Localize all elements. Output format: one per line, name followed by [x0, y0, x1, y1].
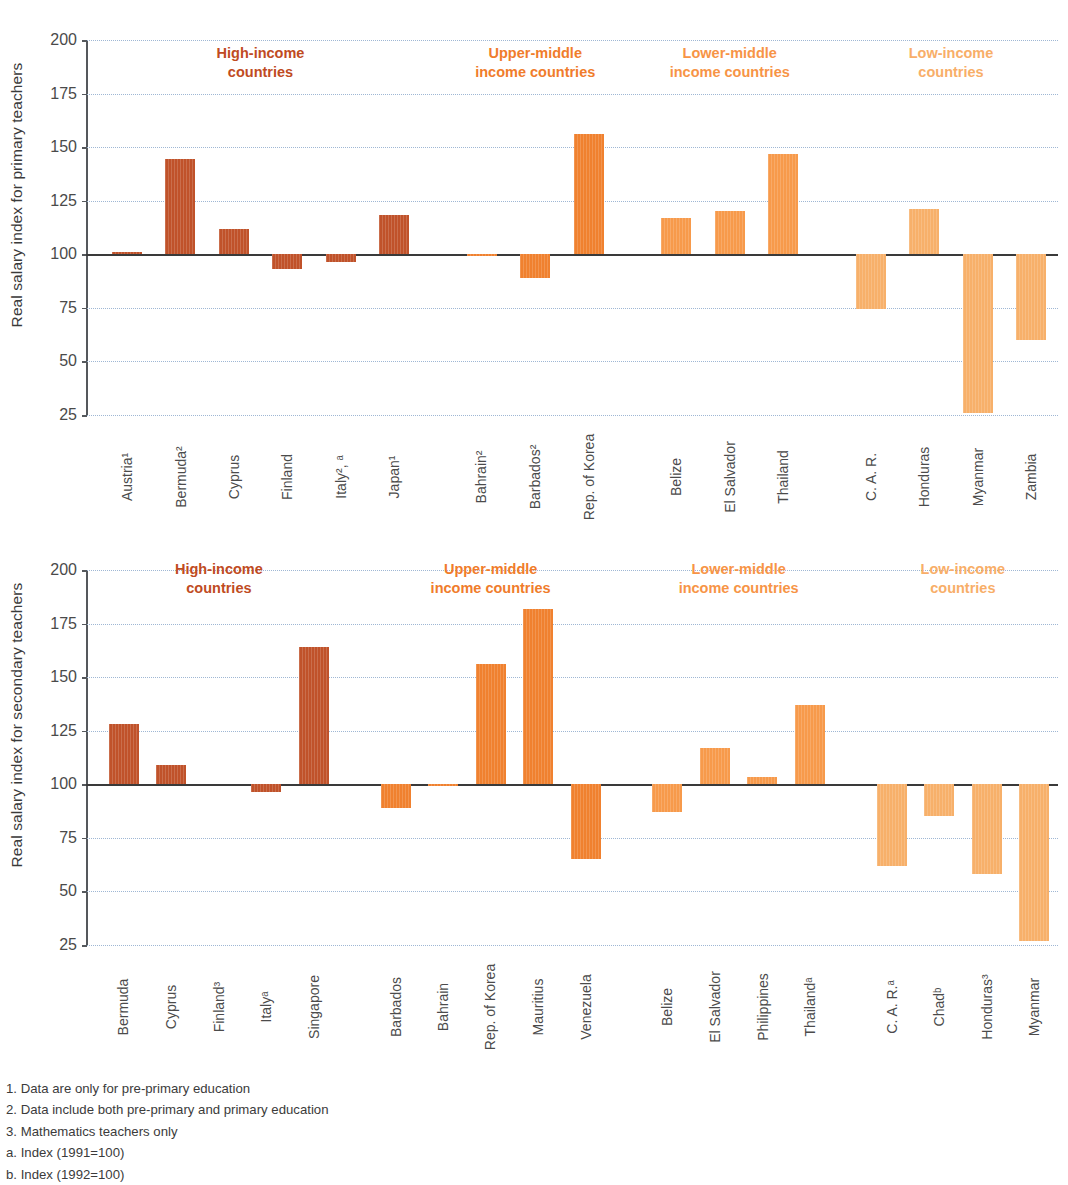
- group-header: Upper-middle income countries: [372, 560, 610, 598]
- y-axis-tick: [82, 838, 87, 840]
- gridline: [86, 945, 1058, 946]
- gridline: [86, 308, 1058, 309]
- bar: [272, 254, 302, 269]
- baseline-100: [86, 254, 1058, 256]
- footnote: 1. Data are only for pre-primary educati…: [6, 1078, 706, 1099]
- group-header: Upper-middle income countries: [455, 44, 616, 82]
- y-axis-tick: [82, 40, 87, 42]
- y-axis-tick-label: 175: [50, 615, 77, 633]
- group-header: Lower-middle income countries: [644, 560, 834, 598]
- chart-primary-teachers: Real salary index for primary teachers 2…: [0, 0, 1068, 530]
- x-axis-label-text: Rep. of Korea: [581, 434, 597, 520]
- bar: [715, 211, 745, 254]
- bar: [747, 777, 777, 785]
- bar: [428, 784, 458, 786]
- bar: [467, 254, 497, 256]
- y-axis-tick: [82, 94, 87, 96]
- y-axis-tick-label: 125: [50, 722, 77, 740]
- gridline: [86, 731, 1058, 732]
- gridline: [86, 201, 1058, 202]
- x-axis-label-text: Thailandᵃ: [802, 978, 818, 1037]
- bar: [379, 215, 409, 255]
- y-axis-tick-label: 100: [50, 245, 77, 263]
- bar: [700, 748, 730, 784]
- gridline: [86, 891, 1058, 892]
- bar: [661, 218, 691, 254]
- y-axis-tick-label: 150: [50, 668, 77, 686]
- y-axis-tick-label: 50: [59, 882, 77, 900]
- gridline: [86, 94, 1058, 95]
- group-header: Low-income countries: [868, 560, 1058, 598]
- bar: [877, 784, 907, 865]
- group-header: Low-income countries: [844, 44, 1058, 82]
- y-axis-line: [86, 40, 88, 415]
- y-axis-tick: [82, 945, 87, 947]
- bar: [574, 134, 604, 254]
- group-header: Lower-middle income countries: [650, 44, 811, 82]
- y-axis-tick-label: 50: [59, 352, 77, 370]
- y-axis-tick-label: 150: [50, 138, 77, 156]
- y-axis-tick: [82, 570, 87, 572]
- bar: [652, 784, 682, 812]
- bar: [156, 765, 186, 784]
- y-axis-tick-label: 75: [59, 299, 77, 317]
- y-axis-tick: [82, 147, 87, 149]
- y-axis-line: [86, 570, 88, 945]
- y-axis-tick: [82, 677, 87, 679]
- plot-area-secondary: 200175150125100755025: [86, 570, 1058, 945]
- x-axis-label: Myanmar: [982, 951, 1068, 1056]
- group-header: High-income countries: [100, 44, 421, 82]
- bar: [520, 254, 550, 278]
- chart-secondary-teachers: Real salary index for secondary teachers…: [0, 530, 1068, 1060]
- bar: [909, 209, 939, 254]
- gridline: [86, 361, 1058, 362]
- bar: [165, 159, 195, 254]
- gridline: [86, 40, 1058, 41]
- bar: [476, 664, 506, 784]
- y-axis-tick-label: 125: [50, 192, 77, 210]
- x-axis-label-text: Thailand: [775, 450, 791, 504]
- bar: [795, 705, 825, 784]
- y-axis-tick-label: 200: [50, 31, 77, 49]
- footnote: b. Index (1992=100): [6, 1164, 706, 1185]
- bar: [768, 154, 798, 255]
- gridline: [86, 415, 1058, 416]
- y-axis-tick-label: 175: [50, 85, 77, 103]
- gridline: [86, 677, 1058, 678]
- y-axis-tick-label: 200: [50, 561, 77, 579]
- y-axis-tick: [82, 891, 87, 893]
- x-axis-labels-primary: Austria¹Bermuda²CyprusFinlandItaly², ᵃJa…: [86, 421, 1058, 526]
- bar: [523, 609, 553, 785]
- gridline: [86, 624, 1058, 625]
- x-axis-labels-secondary: BermudaCyprusFinland³ItalyᵃSingaporeBarb…: [86, 951, 1058, 1056]
- x-axis-label-text: Venezuela: [578, 974, 594, 1039]
- bar: [299, 647, 329, 784]
- y-axis-tick-label: 100: [50, 775, 77, 793]
- footnote: a. Index (1991=100): [6, 1142, 706, 1163]
- y-axis-tick: [82, 415, 87, 417]
- plot-area-primary: 200175150125100755025: [86, 40, 1058, 415]
- bar: [972, 784, 1002, 874]
- bar: [1019, 784, 1049, 940]
- gridline: [86, 147, 1058, 148]
- y-axis-tick: [82, 624, 87, 626]
- bar: [856, 254, 886, 309]
- bar: [112, 252, 142, 254]
- bar: [109, 724, 139, 784]
- x-axis-label-text: Japan¹: [386, 456, 402, 499]
- y-axis-tick: [82, 731, 87, 733]
- group-header: High-income countries: [100, 560, 338, 598]
- y-axis-tick: [82, 308, 87, 310]
- footnote: 3. Mathematics teachers only: [6, 1121, 706, 1142]
- footnotes-block: 1. Data are only for pre-primary educati…: [6, 1078, 706, 1185]
- x-axis-label-text: Zambia: [1023, 454, 1039, 501]
- bar: [963, 254, 993, 413]
- x-axis-label: Zambia: [979, 421, 1068, 526]
- bar: [1016, 254, 1046, 340]
- x-axis-label-text: Myanmar: [1026, 978, 1042, 1036]
- y-axis-title-secondary: Real salary index for secondary teachers: [6, 530, 28, 920]
- bar: [326, 254, 356, 262]
- bar: [571, 784, 601, 859]
- bar: [219, 229, 249, 255]
